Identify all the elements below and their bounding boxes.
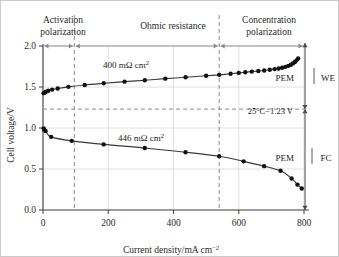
annotation-equilibrium-voltage: 25°C−1.23 V <box>248 106 294 116</box>
curve-label-fc-exponent: 2 <box>161 132 164 139</box>
x-tick-label: 0 <box>41 218 46 228</box>
data-point <box>228 72 232 76</box>
region-label-ohmic-line1: Ohmic resistance <box>140 21 206 31</box>
data-point <box>262 68 266 72</box>
data-point <box>101 142 105 146</box>
data-point <box>278 169 282 173</box>
iv-polarization-chart: 0200400600800 0.00.51.01.52.0 Activation… <box>1 1 339 257</box>
data-point <box>268 68 272 72</box>
y-tick-label: 2.0 <box>24 41 36 51</box>
data-point <box>237 71 241 75</box>
data-point <box>243 70 247 74</box>
curve-label-fc-text: 446 mΩ cm <box>118 133 161 143</box>
data-point <box>241 159 245 163</box>
region-span-arrowhead <box>214 43 218 48</box>
region-label-activation-line1: Activation <box>43 15 83 25</box>
curve-pem-we <box>44 58 298 93</box>
y-tick-labels: 0.00.51.01.52.0 <box>24 41 36 215</box>
x-tick-label: 400 <box>166 218 181 228</box>
y-tick-label: 0.0 <box>24 205 36 215</box>
data-point <box>55 86 59 90</box>
curve-label-fc: 446 mΩ cm2 <box>118 132 164 144</box>
data-point <box>256 69 260 73</box>
region-span-arrowhead <box>45 43 49 48</box>
side-label-pem-we: PEM <box>275 73 294 83</box>
x-axis-title-exponent: −2 <box>212 244 219 251</box>
fc-range-arrow-arrowhead-bottom <box>302 206 307 210</box>
fc-range-arrow-arrowhead-top <box>302 109 307 113</box>
data-point <box>217 73 221 77</box>
x-axis-title: Current density/mA cm−2 <box>123 244 219 256</box>
data-point <box>289 176 293 180</box>
data-point <box>183 75 187 79</box>
data-point <box>183 150 187 154</box>
data-point <box>262 164 266 168</box>
region-label-concentration-line2: polarization <box>246 27 292 37</box>
data-point <box>43 129 47 133</box>
data-point <box>70 139 74 143</box>
side-label-we: WE <box>321 73 335 83</box>
region-span-arrowhead <box>76 43 80 48</box>
data-point <box>163 76 167 80</box>
y-tick-label: 1.0 <box>24 123 36 133</box>
data-point <box>122 79 126 83</box>
x-tick-label: 200 <box>101 218 116 228</box>
x-tick-label: 600 <box>232 218 247 228</box>
region-dividers <box>74 15 219 210</box>
figure-container: 0200400600800 0.00.51.01.52.0 Activation… <box>0 0 339 257</box>
region-label-concentration-line1: Concentration <box>242 15 296 25</box>
data-point <box>66 85 70 89</box>
data-point <box>300 186 304 190</box>
data-point <box>49 135 53 139</box>
curve-pem-fc <box>44 128 302 188</box>
data-point <box>217 154 221 158</box>
data-point <box>101 81 105 85</box>
region-span-arrowhead <box>69 43 73 48</box>
data-point <box>83 83 87 87</box>
curve-label-we-exponent: 2 <box>146 59 149 66</box>
region-span-arrowhead <box>221 43 225 48</box>
data-point <box>204 74 208 78</box>
x-tick-label: 800 <box>297 218 312 228</box>
data-point <box>50 87 54 91</box>
data-point <box>295 182 299 186</box>
data-point <box>46 88 50 92</box>
data-point <box>296 56 300 60</box>
side-label-fc: FC <box>320 153 331 163</box>
we-range-arrow-arrowhead-top <box>302 43 307 47</box>
curve-label-we-text: 400 mΩ cm <box>103 60 146 70</box>
data-point <box>272 67 276 71</box>
side-label-pem-fc: PEM <box>275 153 294 163</box>
y-tick-label: 0.5 <box>24 164 36 174</box>
y-tick-label: 1.5 <box>24 82 36 92</box>
x-axis-title-text: Current density/mA cm <box>123 245 213 255</box>
y-axis-title: Cell voltage/V <box>6 107 16 163</box>
data-markers <box>41 56 303 190</box>
data-point <box>250 69 254 73</box>
data-point <box>143 78 147 82</box>
we-range-arrow-arrowhead-bottom <box>302 105 307 109</box>
curve-label-we: 400 mΩ cm2 <box>103 59 149 71</box>
region-span-arrowhead <box>299 43 303 48</box>
data-point <box>143 146 147 150</box>
region-label-activation-line2: polarization <box>40 27 86 37</box>
x-tick-labels: 0200400600800 <box>41 218 312 228</box>
